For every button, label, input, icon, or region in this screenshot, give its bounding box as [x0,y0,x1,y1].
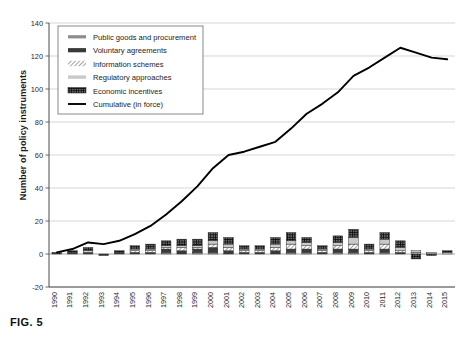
svg-text:2010: 2010 [362,292,371,308]
chart-plot-area: Number of policy instruments -2002040608… [0,0,467,310]
svg-text:1999: 1999 [190,292,199,308]
svg-text:1995: 1995 [128,292,137,308]
svg-text:2007: 2007 [315,292,324,308]
svg-text:120: 120 [31,52,43,61]
svg-text:2001: 2001 [222,292,231,308]
svg-text:2015: 2015 [440,292,449,308]
svg-text:2003: 2003 [253,292,262,308]
svg-text:1992: 1992 [81,292,90,308]
svg-text:20: 20 [35,217,43,226]
figure-caption: FIG. 5 [10,316,43,328]
svg-text:1997: 1997 [159,292,168,308]
svg-text:1990: 1990 [50,292,59,308]
svg-text:2012: 2012 [393,292,402,308]
svg-text:60: 60 [35,151,43,160]
svg-text:2011: 2011 [378,292,387,307]
policy-instruments-chart: -200204060801001201401990199119921993199… [0,0,467,310]
legend-item-2[interactable] [60,44,201,57]
svg-text:1996: 1996 [144,292,153,308]
svg-text:2013: 2013 [409,292,418,308]
legend-item-5[interactable] [60,84,201,97]
svg-text:100: 100 [31,85,43,94]
svg-text:2004: 2004 [268,292,277,308]
svg-text:2006: 2006 [300,292,309,308]
svg-text:0: 0 [39,250,43,259]
svg-text:40: 40 [35,184,43,193]
svg-text:2008: 2008 [331,292,340,308]
svg-text:1998: 1998 [175,292,184,308]
legend-item-6[interactable] [60,98,201,111]
svg-text:2002: 2002 [237,292,246,308]
svg-text:2000: 2000 [206,292,215,308]
figure-root: Number of policy instruments -2002040608… [0,0,467,338]
svg-text:1994: 1994 [112,292,121,308]
svg-text:80: 80 [35,118,43,127]
svg-text:-20: -20 [32,283,43,292]
svg-text:140: 140 [31,19,43,28]
svg-text:2014: 2014 [425,292,434,308]
svg-text:2005: 2005 [284,292,293,308]
legend-item-4[interactable] [60,71,201,84]
svg-text:1991: 1991 [65,292,74,308]
svg-text:2009: 2009 [347,292,356,308]
legend-item-3[interactable] [60,57,201,70]
svg-text:1993: 1993 [97,292,106,308]
legend-item-1[interactable] [60,31,201,44]
